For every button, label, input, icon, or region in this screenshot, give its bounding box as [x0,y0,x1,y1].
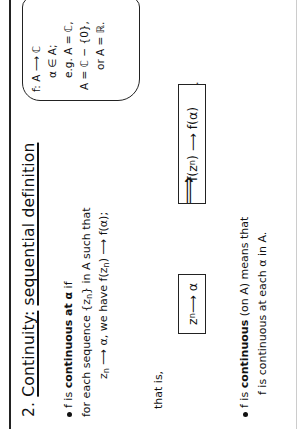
bottom-rule [296,0,297,429]
title-underlined: sequential definition [20,143,38,306]
section-number: 2. [20,402,38,417]
title-main: Continuity: [20,311,38,397]
conclusion-box: f(zn) ⟶ f(α) [178,84,206,204]
bullet-icon [67,412,72,417]
def1-line1: f is continuous at α if [62,281,75,417]
cloud-line: e.g. A = ℂ, [60,0,76,92]
slide-title: 2. Continuity: sequential definition [20,143,38,417]
bullet-icon [243,412,248,417]
cloud-line: α ∈ A; [44,0,60,92]
def1-line3: zn ⟶ α, we have f(zn) ⟶ f(α); [97,212,111,379]
top-rule [9,0,11,429]
conclusion-period: . [188,82,201,86]
cloud-line: f: A ⟶ ℂ [28,0,44,92]
cloud-line: or A = ℝ. [92,0,108,92]
def1-line2: for each sequence {zn} in A such that [80,207,94,417]
rotated-slide: 2. Continuity: sequential definition f: … [0,0,302,429]
note-cloud: f: A ⟶ ℂ α ∈ A; e.g. A = ℂ, A = ℂ − {0},… [22,0,140,101]
cloud-line: A = ℂ − {0}, [76,0,92,92]
def2-line2: f is continuous at each α in A. [256,232,269,395]
that-is-label: that is, [152,371,165,409]
def2-line1: f is continuous (on A) means that [238,217,251,417]
premise-box: zn ⟶ α [178,274,206,334]
